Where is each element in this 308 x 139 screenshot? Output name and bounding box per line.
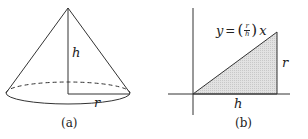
eq-equals: = (225, 25, 235, 37)
cone-left-side (6, 8, 68, 93)
label-radius-a: r (94, 96, 100, 109)
caption-a: (a) (61, 117, 78, 129)
eq-open-paren: ( (237, 23, 243, 38)
cone (6, 8, 130, 104)
eq-fraction: r h (244, 23, 250, 38)
shaded-triangle (193, 32, 277, 94)
eq-close-paren: ) (251, 23, 257, 38)
eq-lhs: y (216, 24, 223, 37)
label-base-b: h (234, 97, 242, 110)
line-equation: y = ( r h ) x (216, 23, 266, 38)
eq-numerator: r (246, 23, 249, 30)
cone-front-base (6, 93, 130, 104)
caption-b: (b) (235, 117, 252, 129)
eq-denominator: h (245, 31, 250, 38)
eq-var: x (259, 24, 266, 37)
label-side-b: r (282, 56, 288, 69)
diagram-canvas (0, 0, 308, 139)
label-height-a: h (72, 46, 80, 59)
